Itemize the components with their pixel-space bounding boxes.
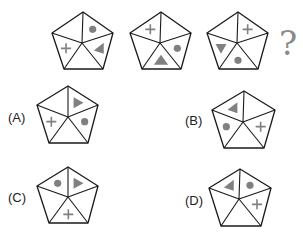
question-mark: ? (279, 26, 297, 60)
dot-icon (54, 180, 61, 187)
dot-icon (223, 123, 230, 130)
puzzle-canvas (0, 0, 303, 234)
dot-icon (89, 26, 96, 33)
option-c-label[interactable]: (C) (8, 190, 26, 205)
option-a-pentagon[interactable] (37, 86, 98, 143)
dot-icon (174, 45, 181, 52)
dot-icon (234, 57, 241, 64)
option-a-label[interactable]: (A) (8, 110, 25, 125)
sequence-pentagon-2 (130, 12, 191, 69)
option-b-label[interactable]: (B) (185, 113, 202, 128)
dot-icon (246, 182, 253, 189)
dot-icon (81, 118, 88, 125)
sequence-pentagon-3 (207, 12, 268, 69)
option-b-pentagon[interactable] (212, 91, 275, 148)
option-d-label[interactable]: (D) (185, 193, 203, 208)
sequence-pentagon-1 (52, 12, 113, 69)
option-c-pentagon[interactable] (37, 167, 98, 223)
option-d-pentagon[interactable] (209, 169, 271, 226)
